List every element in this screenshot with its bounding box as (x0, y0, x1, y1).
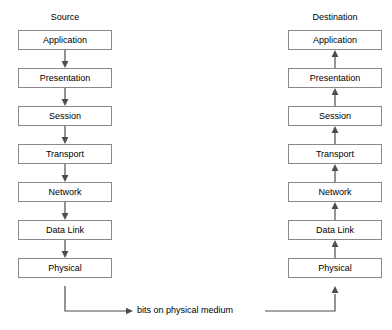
source-layer-physical: Physical (18, 258, 112, 278)
source-arrow-network-to-data-link (56, 202, 74, 220)
destination-arrow-physical-to-data-link (326, 240, 344, 258)
destination-layer-physical: Physical (288, 258, 382, 278)
osi-model-diagram: Source Destination Application Presentat… (0, 0, 392, 330)
destination-arrow-data-link-to-network (326, 202, 344, 220)
source-layer-session: Session (18, 106, 112, 126)
destination-layer-session: Session (288, 106, 382, 126)
source-layer-transport: Transport (18, 144, 112, 164)
destination-layer-application: Application (288, 30, 382, 50)
source-layer-presentation: Presentation (18, 68, 112, 88)
destination-arrow-network-to-transport (326, 164, 344, 182)
source-arrow-session-to-transport (56, 126, 74, 144)
source-arrow-presentation-to-session (56, 88, 74, 106)
source-arrow-transport-to-network (56, 164, 74, 182)
destination-layer-network: Network (288, 182, 382, 202)
physical-medium-label: bits on physical medium (134, 305, 236, 316)
destination-layer-presentation: Presentation (288, 68, 382, 88)
source-layer-network: Network (18, 182, 112, 202)
destination-layer-transport: Transport (288, 144, 382, 164)
source-arrow-data-link-to-physical (56, 240, 74, 258)
source-arrow-application-to-presentation (56, 50, 74, 68)
destination-arrow-session-to-presentation (326, 88, 344, 106)
destination-layer-data-link: Data Link (288, 220, 382, 240)
source-column-title: Source (18, 12, 112, 23)
destination-arrow-transport-to-session (326, 126, 344, 144)
source-layer-application: Application (18, 30, 112, 50)
destination-column-title: Destination (288, 12, 382, 23)
source-layer-data-link: Data Link (18, 220, 112, 240)
destination-arrow-presentation-to-application (326, 50, 344, 68)
